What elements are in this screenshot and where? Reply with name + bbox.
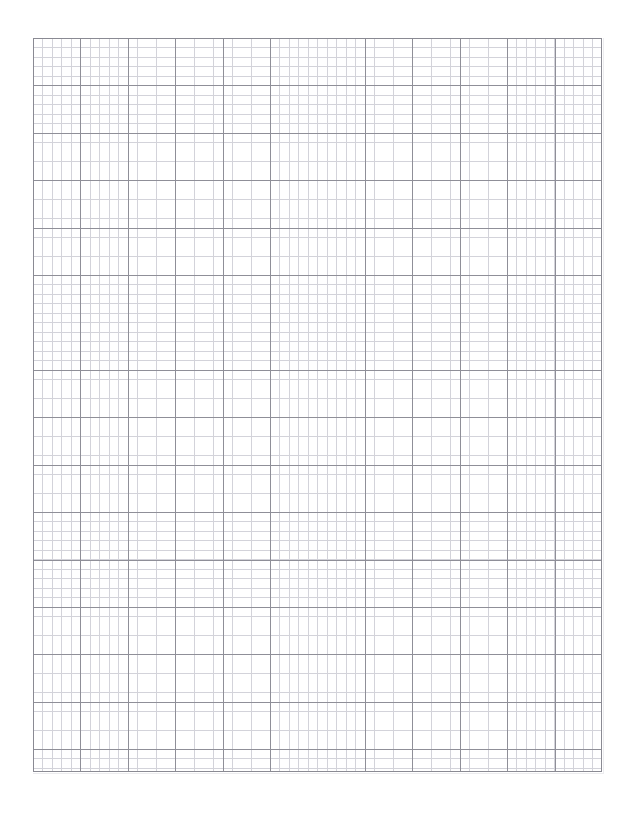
page-title: Graph Paper [0, 21, 1, 22]
graph-paper-page: Graph Paper [0, 0, 634, 814]
graph-paper-grid [33, 38, 602, 772]
